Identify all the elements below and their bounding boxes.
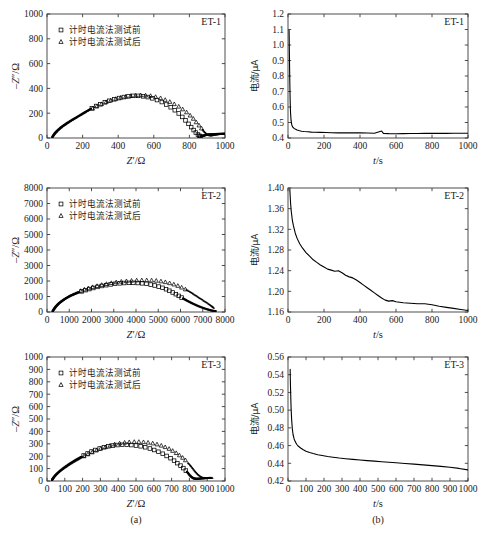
y-tick-label: 1.32 — [267, 225, 284, 235]
panel-tag-et3-nyquist: ET-3 — [201, 359, 221, 370]
x-tick-label: 1000 — [459, 484, 478, 494]
x-tick-label: 600 — [389, 484, 404, 494]
x-tick-label: 0 — [286, 484, 291, 494]
x-tick-label: 900 — [200, 484, 215, 494]
panel-tag-et2-nyquist: ET-2 — [201, 190, 221, 201]
y-tick-label: 1.16 — [267, 307, 284, 317]
x-tick-label: 400 — [111, 484, 126, 494]
x-tick-label: 500 — [129, 484, 144, 494]
legend-label-after: 计时电流法测试后 — [69, 36, 141, 47]
x-axis-title: Z′/Ω — [127, 155, 146, 166]
y-tick-label: 8000 — [24, 183, 43, 193]
y-tick-label: 1.2 — [272, 9, 284, 19]
caption-a: (a) — [130, 514, 141, 526]
panel-tag-et1-chrono: ET-1 — [444, 16, 464, 27]
y-tick-label: 1.24 — [267, 266, 284, 276]
x-tick-label: 8000 — [216, 315, 235, 325]
x-axis-title: Z′/Ω — [127, 498, 146, 509]
y-tick-label: 0.46 — [267, 441, 284, 451]
y-tick-label: 0.42 — [267, 476, 284, 486]
y-axis-title: 电流/μA — [249, 233, 260, 267]
y-tick-label: 0.7 — [272, 87, 284, 97]
x-tick-label: 1000 — [216, 484, 235, 494]
x-tick-label: 200 — [75, 484, 90, 494]
x-tick-label: 400 — [353, 484, 368, 494]
x-tick-label: 0 — [45, 315, 50, 325]
x-axis-title: Z′/Ω — [127, 329, 146, 340]
y-tick-label: 0.5 — [272, 118, 284, 128]
x-tick-label: 800 — [425, 141, 440, 151]
x-tick-label: 200 — [75, 141, 90, 151]
x-tick-label: 500 — [371, 484, 386, 494]
x-tick-label: 600 — [147, 141, 162, 151]
y-tick-label: 0.6 — [272, 102, 284, 112]
y-tick-label: 0 — [38, 476, 43, 486]
y-tick-label: 0.4 — [272, 133, 284, 143]
y-tick-label: 0 — [38, 307, 43, 317]
legend-label-before: 计时电流法测试前 — [69, 198, 141, 209]
x-tick-label: 1000 — [459, 141, 478, 151]
y-tick-label: 0 — [38, 133, 43, 143]
y-tick-label: 1000 — [24, 352, 43, 362]
legend-label-after: 计时电流法测试后 — [69, 210, 141, 221]
x-tick-label: 800 — [425, 484, 440, 494]
x-tick-label: 900 — [443, 484, 458, 494]
y-axis-title: –Z″/Ω — [10, 237, 21, 264]
y-tick-label: 900 — [29, 365, 44, 375]
x-tick-label: 1000 — [216, 141, 235, 151]
figure-canvas: 0200400600800100002004006008001000计时电流法测… — [0, 0, 492, 533]
y-tick-label: 100 — [29, 464, 44, 474]
x-tick-label: 400 — [353, 315, 368, 325]
x-tick-label: 0 — [286, 315, 291, 325]
x-tick-label: 0 — [45, 141, 50, 151]
y-tick-label: 1000 — [24, 292, 43, 302]
panel-tag-et2-chrono: ET-2 — [444, 190, 464, 201]
y-tick-label: 0.52 — [267, 388, 284, 398]
legend-label-after: 计时电流法测试后 — [69, 379, 141, 390]
y-tick-label: 400 — [29, 84, 44, 94]
figure-background — [0, 0, 492, 533]
y-tick-label: 0.44 — [267, 459, 284, 469]
x-tick-label: 4000 — [127, 315, 146, 325]
x-tick-label: 0 — [45, 484, 50, 494]
y-tick-label: 0.54 — [267, 370, 284, 380]
y-tick-label: 0.50 — [267, 405, 284, 415]
y-tick-label: 600 — [29, 59, 44, 69]
y-tick-label: 2000 — [24, 276, 43, 286]
panel-tag-et3-chrono: ET-3 — [444, 359, 464, 370]
y-tick-label: 5000 — [24, 230, 43, 240]
y-axis-title: –Z″/Ω — [10, 63, 21, 90]
y-tick-label: 800 — [29, 34, 44, 44]
x-tick-label: 200 — [317, 315, 332, 325]
x-tick-label: 800 — [182, 141, 197, 151]
y-tick-label: 700 — [29, 390, 44, 400]
legend-label-before: 计时电流法测试前 — [69, 367, 141, 378]
y-tick-label: 1.20 — [267, 287, 284, 297]
y-tick-label: 6000 — [24, 214, 43, 224]
x-tick-label: 200 — [317, 484, 332, 494]
x-tick-label: 600 — [389, 141, 404, 151]
x-tick-label: 3000 — [104, 315, 123, 325]
x-tick-label: 700 — [164, 484, 179, 494]
x-tick-label: 1000 — [60, 315, 79, 325]
y-tick-label: 1000 — [24, 9, 43, 19]
y-tick-label: 1.28 — [267, 245, 284, 255]
x-tick-label: 300 — [93, 484, 108, 494]
y-axis-title: 电流/μA — [249, 59, 260, 93]
y-tick-label: 1.1 — [272, 25, 284, 35]
x-tick-label: 600 — [147, 484, 162, 494]
caption-b: (b) — [372, 514, 384, 526]
x-tick-label: 5000 — [149, 315, 168, 325]
figure-container: 0200400600800100002004006008001000计时电流法测… — [0, 0, 492, 533]
y-tick-label: 4000 — [24, 245, 43, 255]
y-axis-title: 电流/μA — [249, 402, 260, 436]
y-tick-label: 0.9 — [272, 56, 284, 66]
y-tick-label: 200 — [29, 109, 44, 119]
x-tick-label: 200 — [317, 141, 332, 151]
y-tick-label: 500 — [29, 414, 44, 424]
x-tick-label: 100 — [58, 484, 73, 494]
panel-tag-et1-nyquist: ET-1 — [201, 16, 221, 27]
x-tick-label: 800 — [425, 315, 440, 325]
x-axis-title: t/s — [373, 329, 383, 340]
x-tick-label: 400 — [353, 141, 368, 151]
